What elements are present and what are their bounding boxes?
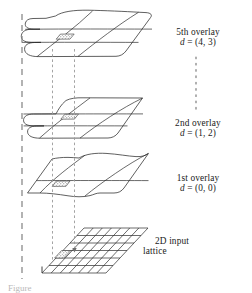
displacement-value: = (1, 2): [185, 128, 216, 138]
label-1st-overlay-title: 1st overlay: [150, 173, 246, 183]
displacement-value: = (4, 3): [185, 37, 216, 47]
overlay-sheet-2nd: [23, 98, 143, 138]
label-2nd-overlay-displacement: d = (1, 2): [150, 128, 246, 138]
label-5th-overlay: 5th overlay d = (4, 3): [150, 27, 246, 48]
overlay-2nd-outline: [24, 98, 143, 138]
displacement-value: = (0, 0): [185, 183, 216, 193]
label-5th-overlay-title: 5th overlay: [150, 27, 246, 37]
overlay-1st-outline: [28, 153, 149, 197]
overlay-sheet-5th: [21, 10, 152, 56]
label-lattice-line-2: lattice: [143, 246, 247, 256]
overlay-sheet-1st: [28, 153, 149, 197]
label-5th-overlay-displacement: d = (4, 3): [150, 37, 246, 47]
label-lattice-line-1: 2D input: [155, 236, 247, 246]
figure-caption: Figure: [8, 283, 32, 293]
label-2nd-overlay: 2nd overlay d = (1, 2): [150, 118, 246, 139]
input-lattice-grid: [42, 228, 148, 273]
projection-guides: [53, 49, 77, 262]
label-1st-overlay: 1st overlay d = (0, 0): [150, 173, 246, 194]
label-2d-input-lattice: 2D input lattice: [155, 236, 247, 257]
label-2nd-overlay-title: 2nd overlay: [150, 118, 246, 128]
label-1st-overlay-displacement: d = (0, 0): [150, 183, 246, 193]
